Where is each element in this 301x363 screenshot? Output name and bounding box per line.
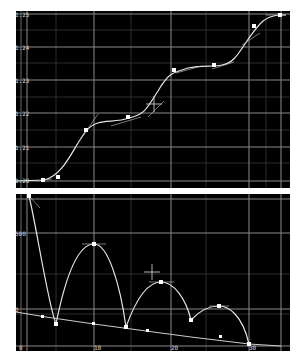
y-axis-label: 1.20	[15, 178, 29, 184]
y-axis-label: 500	[15, 231, 26, 237]
bounce-graph-panel[interactable]: 500 0 0 10 20 30	[16, 194, 290, 351]
keyframe-points[interactable]	[27, 194, 251, 346]
bounce-graph-canvas[interactable]	[16, 194, 290, 351]
y-axis-label: 1.24	[15, 45, 29, 51]
y-axis-label: 1.25	[15, 12, 29, 18]
x-axis-label: 20	[171, 345, 178, 351]
value-graph-panel[interactable]: 1.25 1.24 1.23 1.22 1.21 1.20	[16, 11, 290, 188]
bounce-curve[interactable]	[29, 196, 249, 344]
x-axis-label: 30	[249, 345, 256, 351]
y-axis-label: 0	[15, 307, 19, 313]
crosshair-cursor-icon	[146, 96, 162, 112]
y-axis-label: 1.22	[15, 111, 29, 117]
value-graph-canvas[interactable]	[16, 11, 290, 188]
crosshair-cursor-icon	[144, 264, 160, 280]
x-axis-label: 10	[94, 345, 101, 351]
x-axis-label: 0	[19, 345, 23, 351]
y-axis-label: 1.21	[15, 145, 29, 151]
y-axis-label: 1.23	[15, 78, 29, 84]
